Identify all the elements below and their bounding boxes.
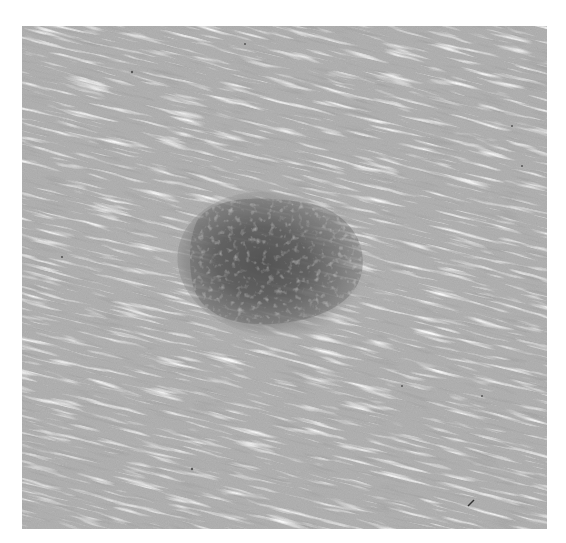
skin-lesion-photo [22, 26, 547, 529]
image-canvas [0, 0, 566, 543]
photo-render [22, 26, 547, 529]
